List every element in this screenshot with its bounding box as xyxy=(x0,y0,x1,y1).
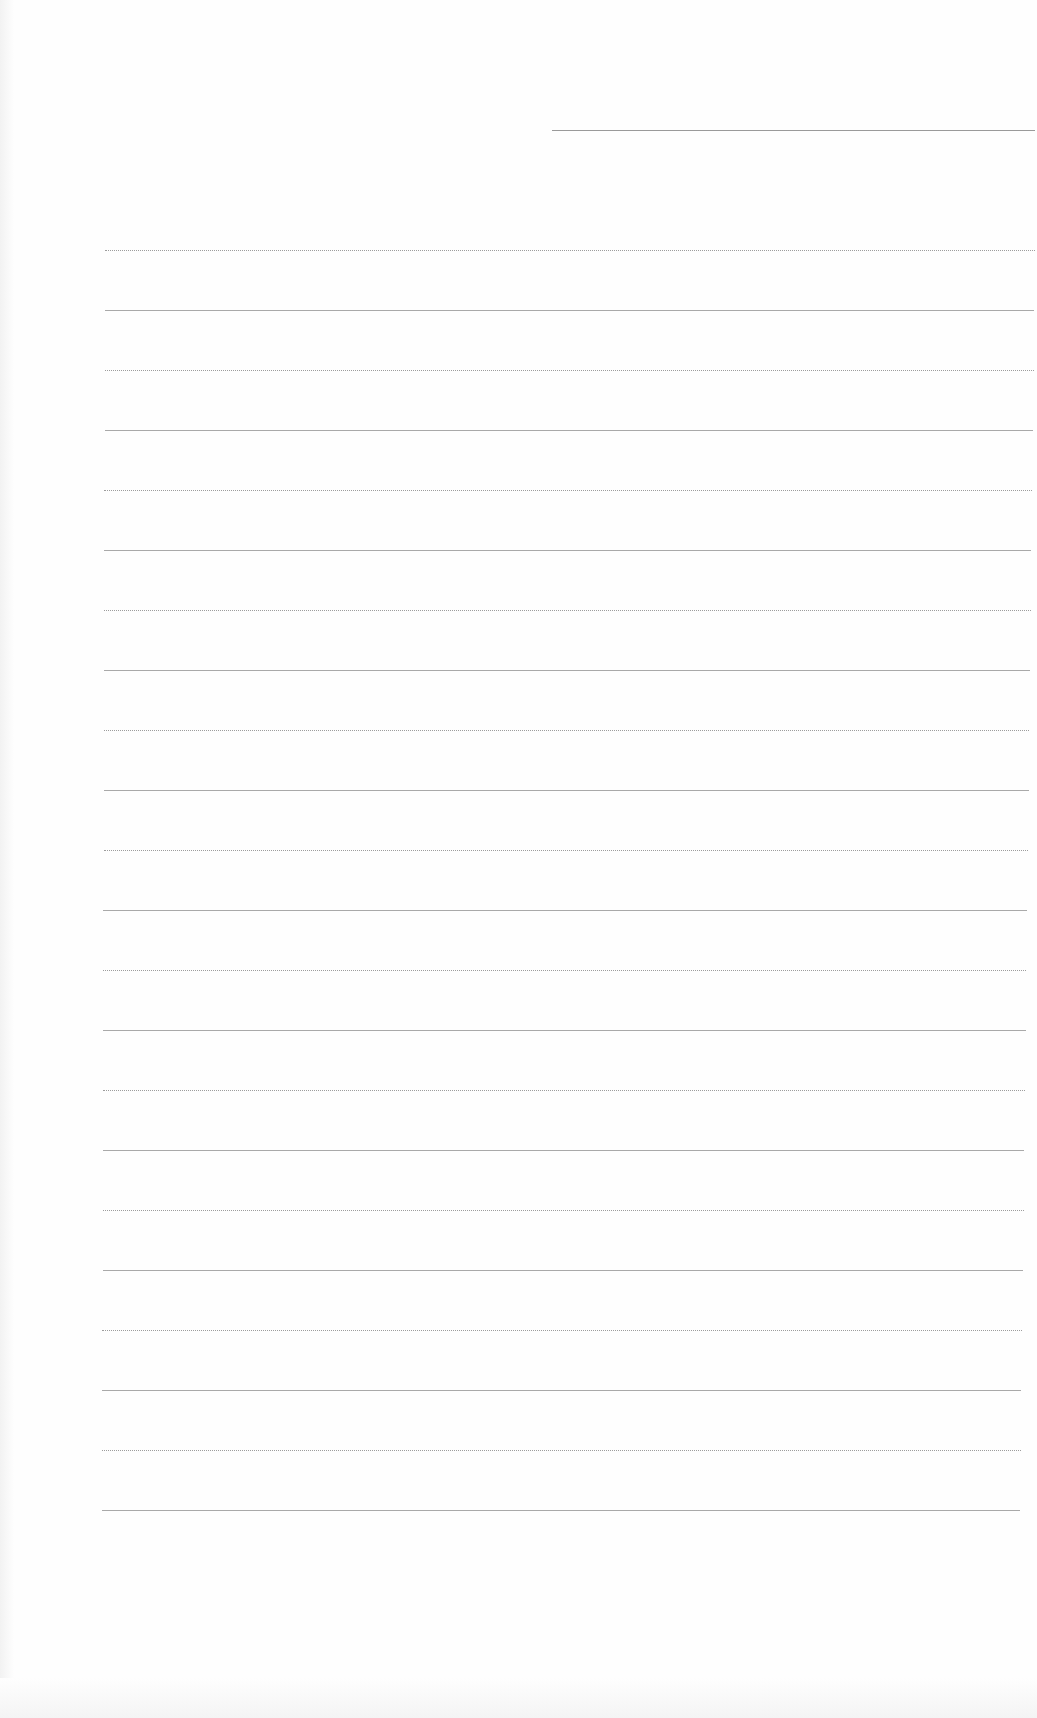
ruled-line xyxy=(102,1510,1020,1511)
ruled-line xyxy=(102,1390,1021,1391)
ruled-line xyxy=(103,1150,1024,1151)
ruled-line xyxy=(104,790,1029,791)
ruled-line xyxy=(103,1210,1024,1211)
header-blank-line xyxy=(552,130,1035,131)
page-bottom-shadow xyxy=(0,1678,1037,1718)
ruled-line xyxy=(104,610,1031,611)
ruled-line xyxy=(103,910,1027,911)
ruled-line xyxy=(103,1090,1025,1091)
ruled-line xyxy=(105,310,1034,311)
ruled-line xyxy=(105,250,1035,251)
ruled-line xyxy=(103,1270,1023,1271)
ruled-line xyxy=(104,670,1030,671)
ruled-line xyxy=(104,550,1031,551)
ruled-line xyxy=(104,850,1028,851)
ruled-line xyxy=(104,730,1029,731)
ruled-line xyxy=(103,1030,1026,1031)
ruled-line xyxy=(105,370,1034,371)
ruled-line xyxy=(102,1450,1021,1451)
ruled-line xyxy=(102,1330,1022,1331)
ruled-line xyxy=(104,490,1032,491)
ruled-line xyxy=(103,970,1026,971)
ruled-line xyxy=(105,430,1033,431)
page-edge-shadow xyxy=(0,0,14,1718)
